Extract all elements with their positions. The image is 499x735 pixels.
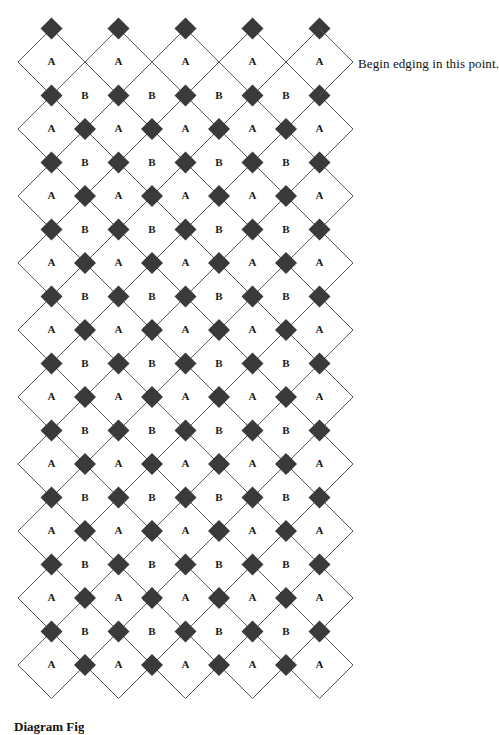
- cell-label-a-r6-c0: A: [48, 457, 56, 469]
- cell-label-b-r2-c2: B: [215, 223, 223, 235]
- cell-label-b-r3-c1: B: [148, 290, 156, 302]
- cell-label-b-r2-c3: B: [282, 223, 290, 235]
- cell-label-a-r2-c1: A: [115, 189, 123, 201]
- cell-label-a-r4-c4: A: [316, 323, 324, 335]
- cell-label-a-r7-c0: A: [48, 524, 56, 536]
- cell-label-b-r7-c1: B: [148, 558, 156, 570]
- cell-label-a-r6-c1: A: [115, 457, 123, 469]
- cell-label-a-r9-c2: A: [182, 658, 190, 670]
- cell-label-a-r4-c0: A: [48, 323, 56, 335]
- cell-label-a-r4-c2: A: [182, 323, 190, 335]
- cell-label-a-r3-c4: A: [316, 256, 324, 268]
- cell-label-a-r4-c1: A: [115, 323, 123, 335]
- cell-label-b-r5-c0: B: [81, 424, 89, 436]
- cell-label-b-r3-c3: B: [282, 290, 290, 302]
- cell-label-b-r7-c0: B: [81, 558, 89, 570]
- cell-label-b-r5-c1: B: [148, 424, 156, 436]
- cell-label-a-r8-c3: A: [249, 591, 257, 603]
- cell-label-b-r6-c2: B: [215, 491, 223, 503]
- cell-label-b-r1-c3: B: [282, 156, 290, 168]
- cell-label-b-r0-c0: B: [81, 89, 89, 101]
- cell-label-a-r5-c0: A: [48, 390, 56, 402]
- cell-label-a-r0-c3: A: [249, 55, 257, 67]
- cell-label-b-r4-c3: B: [282, 357, 290, 369]
- cell-label-a-r3-c1: A: [115, 256, 123, 268]
- cell-label-b-r3-c2: B: [215, 290, 223, 302]
- cell-label-a-r0-c1: A: [115, 55, 123, 67]
- cell-label-a-r5-c3: A: [249, 390, 257, 402]
- cell-label-a-r3-c0: A: [48, 256, 56, 268]
- cell-label-b-r6-c1: B: [148, 491, 156, 503]
- cell-label-b-r8-c0: B: [81, 625, 89, 637]
- cell-label-a-r8-c2: A: [182, 591, 190, 603]
- cell-label-a-r1-c0: A: [48, 122, 56, 134]
- cell-label-a-r1-c1: A: [115, 122, 123, 134]
- cell-label-b-r4-c2: B: [215, 357, 223, 369]
- cell-label-a-r0-c2: A: [182, 55, 190, 67]
- cell-label-b-r2-c1: B: [148, 223, 156, 235]
- cell-label-a-r3-c3: A: [249, 256, 257, 268]
- cell-label-a-r9-c1: A: [115, 658, 123, 670]
- annotation-leader-chevron: [320, 29, 354, 96]
- cell-label-b-r8-c3: B: [282, 625, 290, 637]
- cell-label-b-r1-c2: B: [215, 156, 223, 168]
- cell-label-b-r8-c2: B: [215, 625, 223, 637]
- cell-label-b-r6-c0: B: [81, 491, 89, 503]
- cell-label-a-r1-c3: A: [249, 122, 257, 134]
- cell-label-a-r5-c1: A: [115, 390, 123, 402]
- cell-label-a-r9-c0: A: [48, 658, 56, 670]
- cell-label-b-r2-c0: B: [81, 223, 89, 235]
- annotation-leader-layer: [320, 29, 354, 96]
- cell-label-a-r5-c2: A: [182, 390, 190, 402]
- lattice-bead-layer: [41, 18, 331, 677]
- cell-label-a-r7-c3: A: [249, 524, 257, 536]
- cell-label-a-r9-c4: A: [316, 658, 324, 670]
- cell-label-b-r1-c0: B: [81, 156, 89, 168]
- cell-label-a-r4-c3: A: [249, 323, 257, 335]
- cell-label-b-r4-c1: B: [148, 357, 156, 369]
- cell-label-a-r7-c2: A: [182, 524, 190, 536]
- cell-label-a-r8-c1: A: [115, 591, 123, 603]
- cell-label-a-r8-c0: A: [48, 591, 56, 603]
- cell-label-a-r6-c2: A: [182, 457, 190, 469]
- cell-label-a-r8-c4: A: [316, 591, 324, 603]
- cell-label-a-r5-c4: A: [316, 390, 324, 402]
- cell-label-b-r0-c3: B: [282, 89, 290, 101]
- cell-label-a-r7-c1: A: [115, 524, 123, 536]
- cell-label-a-r2-c3: A: [249, 189, 257, 201]
- cell-label-b-r5-c3: B: [282, 424, 290, 436]
- cell-label-b-r3-c0: B: [81, 290, 89, 302]
- figure-caption: Diagram Fig: [14, 719, 84, 735]
- begin-edging-annotation: Begin edging in this point.: [358, 56, 499, 72]
- cell-label-b-r8-c1: B: [148, 625, 156, 637]
- cell-label-b-r5-c2: B: [215, 424, 223, 436]
- cell-label-a-r2-c2: A: [182, 189, 190, 201]
- cell-label-a-r2-c0: A: [48, 189, 56, 201]
- cell-label-a-r0-c0: A: [48, 55, 56, 67]
- cell-label-a-r6-c4: A: [316, 457, 324, 469]
- cell-label-b-r7-c3: B: [282, 558, 290, 570]
- cell-label-a-r3-c2: A: [182, 256, 190, 268]
- cell-label-b-r7-c2: B: [215, 558, 223, 570]
- cell-label-b-r4-c0: B: [81, 357, 89, 369]
- cell-label-a-r2-c4: A: [316, 189, 324, 201]
- cell-label-b-r1-c1: B: [148, 156, 156, 168]
- cell-label-b-r0-c1: B: [148, 89, 156, 101]
- cell-label-a-r9-c3: A: [249, 658, 257, 670]
- cell-label-b-r0-c2: B: [215, 89, 223, 101]
- cell-label-a-r1-c2: A: [182, 122, 190, 134]
- cell-label-b-r6-c3: B: [282, 491, 290, 503]
- cell-label-a-r1-c4: A: [316, 122, 324, 134]
- cell-label-a-r0-c4: A: [316, 55, 324, 67]
- cell-label-a-r6-c3: A: [249, 457, 257, 469]
- cell-label-a-r7-c4: A: [316, 524, 324, 536]
